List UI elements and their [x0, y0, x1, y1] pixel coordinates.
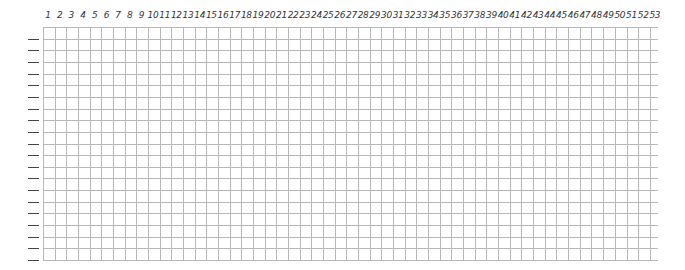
column-label: 39 — [486, 10, 497, 20]
grid-horizontal-line — [43, 97, 658, 98]
grid-horizontal-line — [43, 248, 658, 249]
grid-horizontal-line — [43, 39, 658, 40]
column-label: 41 — [509, 10, 520, 20]
column-label: 15 — [206, 10, 217, 20]
column-label: 53 — [649, 10, 660, 20]
column-label: 50 — [614, 10, 625, 20]
column-label: 45 — [556, 10, 567, 20]
column-label: 34 — [428, 10, 439, 20]
grid-horizontal-line — [43, 27, 658, 28]
column-label: 13 — [183, 10, 194, 20]
column-label: 27 — [346, 10, 357, 20]
grid-horizontal-line — [43, 50, 658, 51]
column-label: 42 — [521, 10, 532, 20]
column-label: 1 — [45, 10, 50, 20]
column-label: 10 — [148, 10, 159, 20]
column-label: 26 — [334, 10, 345, 20]
column-label: 24 — [311, 10, 322, 20]
column-label: 7 — [115, 10, 120, 20]
column-label: 25 — [323, 10, 334, 20]
grid-horizontal-line — [43, 120, 658, 121]
column-label: 35 — [439, 10, 450, 20]
column-label: 2 — [57, 10, 62, 20]
row-marker-dash — [28, 144, 39, 145]
column-label: 47 — [579, 10, 590, 20]
column-label: 46 — [568, 10, 579, 20]
column-label: 44 — [544, 10, 555, 20]
row-marker-dash — [28, 97, 39, 98]
grid-sheet: 1234567891011121314151617181920212223242… — [0, 0, 685, 270]
row-marker-dash — [28, 155, 39, 156]
grid-horizontal-line — [43, 74, 658, 75]
row-marker-dash — [28, 190, 39, 191]
column-label: 29 — [369, 10, 380, 20]
column-label: 28 — [358, 10, 369, 20]
grid-horizontal-line — [43, 237, 658, 238]
grid-horizontal-line — [43, 85, 658, 86]
column-label: 16 — [218, 10, 229, 20]
row-marker-dash — [28, 39, 39, 40]
row-marker-dash — [28, 109, 39, 110]
column-label: 18 — [241, 10, 252, 20]
row-marker-dash — [28, 62, 39, 63]
grid-horizontal-line — [43, 132, 658, 133]
grid-horizontal-line — [43, 155, 658, 156]
column-label: 23 — [299, 10, 310, 20]
row-marker-dash — [28, 50, 39, 51]
grid-horizontal-line — [43, 178, 658, 179]
row-marker-dash — [28, 120, 39, 121]
column-label: 31 — [393, 10, 404, 20]
grid-horizontal-line — [43, 62, 658, 63]
row-marker-dash — [28, 167, 39, 168]
column-label: 9 — [139, 10, 144, 20]
column-label: 37 — [463, 10, 474, 20]
column-label: 48 — [591, 10, 602, 20]
grid-horizontal-line — [43, 190, 658, 191]
column-label: 52 — [638, 10, 649, 20]
grid-horizontal-line — [43, 144, 658, 145]
column-label: 40 — [498, 10, 509, 20]
row-marker-dash — [28, 74, 39, 75]
grid-horizontal-line — [43, 167, 658, 168]
column-label: 12 — [171, 10, 182, 20]
column-label: 30 — [381, 10, 392, 20]
row-marker-dash — [28, 178, 39, 179]
column-label: 43 — [533, 10, 544, 20]
grid-horizontal-line — [43, 202, 658, 203]
column-label: 49 — [603, 10, 614, 20]
column-label: 32 — [404, 10, 415, 20]
grid-horizontal-line — [43, 213, 658, 214]
column-label: 36 — [451, 10, 462, 20]
row-marker-dash — [28, 225, 39, 226]
column-label: 21 — [276, 10, 287, 20]
grid-horizontal-line — [43, 260, 658, 261]
column-label: 8 — [127, 10, 132, 20]
row-marker-dash — [28, 248, 39, 249]
column-label: 51 — [626, 10, 637, 20]
column-label: 11 — [159, 10, 170, 20]
column-label: 38 — [474, 10, 485, 20]
row-marker-dash — [28, 213, 39, 214]
row-marker-dash — [28, 237, 39, 238]
column-label: 22 — [288, 10, 299, 20]
row-marker-dash — [28, 260, 39, 261]
column-label: 19 — [253, 10, 264, 20]
column-label: 4 — [80, 10, 85, 20]
grid-horizontal-line — [43, 225, 658, 226]
column-label: 33 — [416, 10, 427, 20]
column-label: 3 — [69, 10, 74, 20]
row-marker-dash — [28, 85, 39, 86]
row-marker-dash — [28, 132, 39, 133]
row-marker-dash — [28, 202, 39, 203]
column-label: 5 — [92, 10, 97, 20]
column-label: 17 — [229, 10, 240, 20]
column-label: 14 — [194, 10, 205, 20]
column-label: 6 — [104, 10, 109, 20]
grid-horizontal-line — [43, 109, 658, 110]
column-label: 20 — [264, 10, 275, 20]
